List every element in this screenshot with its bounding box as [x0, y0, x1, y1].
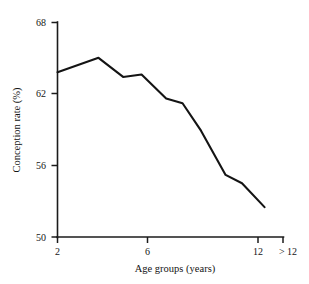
x-tick-label-2: 2: [55, 246, 60, 257]
y-tick-label-50: 50: [36, 232, 46, 243]
x-tick-label-6: 6: [145, 246, 150, 257]
y-tick-label-62: 62: [36, 88, 46, 99]
y-tick-label-56: 56: [36, 160, 46, 171]
y-tick-label-68: 68: [36, 17, 46, 28]
x-tick-label-gt12: > 12: [279, 246, 297, 257]
data-series-line: [58, 58, 265, 207]
line-chart: 68 62 56 50 2 6 12 > 12 Age groups (year…: [0, 0, 309, 284]
x-tick-label-12: 12: [253, 246, 263, 257]
chart-figure: 68 62 56 50 2 6 12 > 12 Age groups (year…: [0, 0, 309, 284]
y-axis-title: Conception rate (%): [11, 87, 23, 173]
x-axis-title: Age groups (years): [135, 263, 216, 275]
